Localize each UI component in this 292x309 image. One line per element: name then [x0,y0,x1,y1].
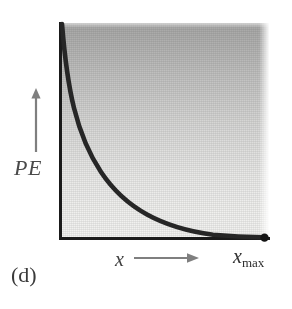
x-max-label: xmax [233,245,264,271]
plot-area [61,23,269,238]
y-axis-line [59,22,62,240]
y-axis-label: PE [14,155,42,181]
x-axis-line [59,237,270,240]
potential-energy-figure: PE x xmax (d) [0,0,292,309]
plot-shading-gradient [61,23,269,238]
x-axis-label: x [115,248,124,271]
x-max-subscript: max [242,255,264,270]
x-max-variable: x [233,245,242,267]
arrow-up-icon [26,86,46,154]
panel-letter: (d) [11,262,37,288]
arrow-right-icon [133,250,201,266]
